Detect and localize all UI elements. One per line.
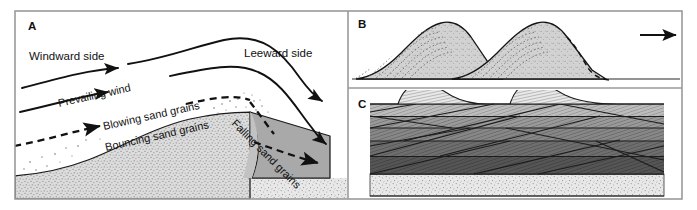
panel-b-label: B: [358, 18, 366, 30]
figure-canvas: A Windward side Leeward side Prevailing …: [0, 0, 697, 210]
windward-side-label: Windward side: [29, 50, 104, 62]
panel-c-stratum-4: [370, 140, 664, 157]
dune-formation-figure: A Windward side Leeward side Prevailing …: [0, 0, 697, 210]
leeward-side-label: Leeward side: [244, 47, 312, 59]
panel-a-label: A: [28, 20, 36, 32]
panel-c-stratum-5: [370, 156, 664, 175]
panel-c-label: C: [358, 98, 366, 110]
panel-a: A Windward side Leeward side Prevailing …: [14, 11, 347, 199]
panel-c-basal-layer: [370, 174, 664, 196]
panel-c: C: [350, 82, 682, 199]
